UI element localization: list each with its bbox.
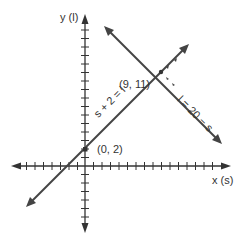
point-marker-9-11	[159, 70, 163, 74]
x-axis-arrow-right-icon	[221, 163, 231, 170]
x-axis-arrow-left-icon	[11, 163, 21, 170]
point-marker-0-2	[83, 147, 88, 152]
y-axis	[81, 20, 89, 228]
x-axis	[14, 162, 226, 170]
y-axis-arrow-down-icon	[82, 223, 89, 233]
line-s-plus-2	[26, 44, 189, 207]
y-axis-label: y (l)	[60, 12, 78, 23]
y-axis-arrow-up-icon	[82, 14, 89, 24]
point-label-0-2: (0, 2)	[97, 144, 123, 155]
graph-figure: y (l) x (s) (0, 2) (9, 11) s + 2 = l l =…	[0, 0, 242, 243]
x-axis-label: x (s)	[212, 175, 233, 186]
